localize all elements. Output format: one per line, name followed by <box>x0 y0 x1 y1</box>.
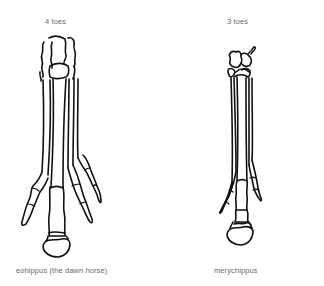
merychippus-foot-drawing <box>0 0 324 286</box>
